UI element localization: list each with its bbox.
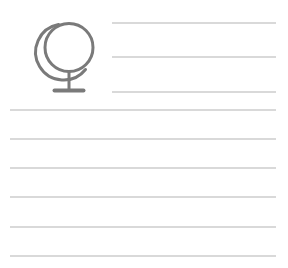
placeholder-card: Desk globe (0, 0, 288, 268)
text-line-placeholder (112, 22, 276, 24)
text-line-placeholder (10, 255, 276, 257)
globe-sphere-icon (45, 24, 93, 72)
text-line-placeholder (10, 167, 276, 169)
text-line-placeholder (112, 91, 276, 93)
text-line-placeholder (10, 109, 276, 111)
text-line-placeholder (112, 56, 276, 58)
text-line-placeholder (10, 138, 276, 140)
text-line-placeholder (10, 226, 276, 228)
globe-icon: Desk globe (28, 12, 100, 104)
globe-meridian-arc-icon (36, 25, 86, 81)
text-line-placeholder (10, 196, 276, 198)
